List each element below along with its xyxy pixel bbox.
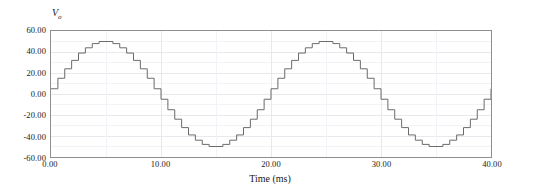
y-axis-tick-label: -40.00 [0,132,46,141]
x-axis-tick-label: 10.00 [151,160,171,169]
plot-area [50,30,492,158]
y-axis-tick-label: 0.00 [0,90,46,99]
y-axis-tick-label: -60.00 [0,154,46,163]
chart-figure: Vo 60.0040.0020.000.00-20.00-40.00-60.00… [0,0,540,193]
x-axis-tick-label: 40.00 [482,160,502,169]
y-axis-title-subscript: o [58,13,62,21]
y-axis-tick-label: -20.00 [0,111,46,120]
x-axis-tick-labels: 0.0010.0020.0030.0040.00 [50,160,492,172]
y-axis-tick-label: 20.00 [0,68,46,77]
y-axis-tick-label: 40.00 [0,47,46,56]
y-axis-tick-label: 60.00 [0,26,46,35]
waveform-series [51,31,491,157]
x-axis-tick-label: 30.00 [372,160,392,169]
x-axis-tick-label: 20.00 [261,160,281,169]
x-axis-title: Time (ms) [0,174,540,184]
y-axis-title: Vo [52,8,62,22]
x-axis-tick-label: 0.00 [42,160,57,169]
y-axis-tick-labels: 60.0040.0020.000.00-20.00-40.00-60.00 [0,30,46,158]
